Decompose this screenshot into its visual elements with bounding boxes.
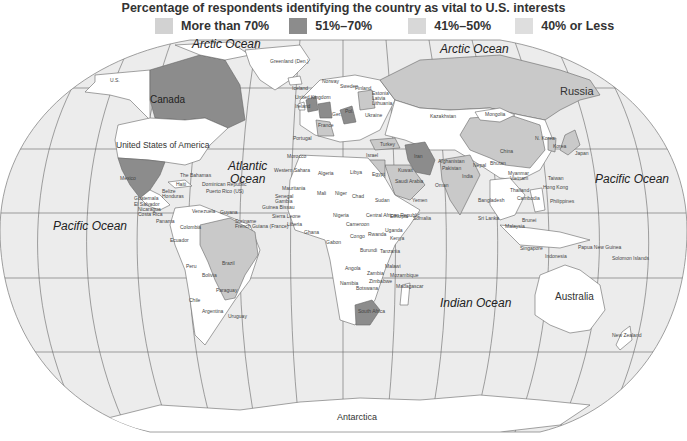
label-us-alaska: U.S. — [110, 77, 120, 83]
label-canada: Canada — [150, 94, 185, 105]
label-sweden: Sweden — [340, 83, 358, 89]
label-libya: Libya — [350, 169, 362, 175]
label-angola: Angola — [345, 265, 361, 271]
label-zimbabwe: Zimbabwe — [369, 278, 392, 284]
label-malawi: Malawi — [385, 263, 401, 269]
label-pacific-ocean-east: Pacific Ocean — [595, 172, 669, 186]
label-burundi: Burundi — [360, 247, 377, 253]
label-mozambique: Mozambique — [390, 272, 419, 278]
label-peru: Peru — [186, 263, 197, 269]
label-russia: Russia — [560, 85, 595, 97]
label-korea: Korea — [553, 143, 567, 149]
label-kenya: Kenya — [390, 235, 404, 241]
label-nepal: Nepal — [473, 162, 486, 168]
label-chile: Chile — [189, 297, 201, 303]
label-png: Papua New Guinea — [578, 244, 622, 250]
label-iceland: Iceland — [292, 85, 308, 91]
label-china: China — [500, 148, 513, 154]
label-south-africa: South Africa — [358, 308, 385, 314]
label-venezuela: Venezuela — [192, 208, 216, 214]
label-saudi: Saudi Arabia — [395, 178, 424, 184]
label-cameroon: Cameroon — [346, 221, 370, 227]
label-greenland: Greenland (Den.) — [270, 58, 309, 64]
label-puerto-rico: Puerto Rico (US) — [206, 188, 244, 194]
label-uruguay: Uruguay — [228, 313, 247, 319]
label-thailand: Thailand — [510, 187, 529, 193]
label-sierra-leone: Sierra Leone — [272, 213, 301, 219]
label-solomon: Solomon Islands — [612, 255, 649, 261]
label-niger: Niger — [335, 190, 347, 196]
label-norway: Norway — [322, 78, 339, 84]
label-mongolia: Mongolia — [485, 111, 506, 117]
label-ecuador: Ecuador — [170, 237, 189, 243]
label-tanzania: Tanzania — [380, 248, 400, 254]
label-chad: Chad — [352, 193, 364, 199]
label-madagascar: Madagascar — [396, 283, 424, 289]
label-argentina: Argentina — [202, 308, 224, 314]
label-mexico: Mexico — [120, 175, 136, 181]
label-morocco: Morocco — [287, 153, 306, 159]
label-arctic-ocean-east: Arctic Ocean — [439, 42, 509, 56]
label-australia: Australia — [555, 291, 594, 302]
label-mali: Mali — [317, 190, 326, 196]
label-pakistan: Pakistan — [442, 165, 461, 171]
label-uk: United Kingdom — [295, 94, 331, 100]
label-new-zealand: New Zealand — [612, 332, 642, 338]
label-indonesia: Indonesia — [545, 253, 567, 259]
label-singapore: Singapore — [520, 245, 543, 251]
label-india: India — [462, 173, 473, 179]
label-sri-lanka: Sri Lanka — [478, 215, 499, 221]
label-oman: Oman — [435, 182, 449, 188]
label-french-guiana: French Guiana (France) — [235, 223, 289, 229]
label-car: Central African Republic — [366, 212, 420, 218]
label-gabon: Gabon — [326, 239, 341, 245]
label-zambia: Zambia — [367, 270, 384, 276]
label-bolivia: Bolivia — [202, 272, 217, 278]
label-nigeria: Nigeria — [333, 212, 349, 218]
label-bahamas: The Bahamas — [180, 172, 212, 178]
label-portugal: Portugal — [293, 135, 312, 141]
label-israel: Israel — [366, 152, 378, 158]
label-arctic-ocean-west: Arctic Ocean — [191, 37, 261, 51]
label-taiwan: Taiwan — [548, 175, 564, 181]
label-guyana: Guyana — [220, 209, 238, 215]
label-antarctica: Antarctica — [337, 412, 377, 422]
label-sudan: Sudan — [375, 197, 390, 203]
label-yemen: Yemen — [412, 197, 428, 203]
label-congo: Congo — [350, 233, 365, 239]
label-honduras: Honduras — [162, 193, 184, 199]
label-france: France — [318, 122, 334, 128]
label-costa-rica: Costa Rica — [138, 211, 163, 217]
label-brazil: Brazil — [222, 260, 235, 266]
label-guinea-bissau: Guinea Bissau — [262, 204, 295, 210]
label-botswana: Botswana — [356, 285, 378, 291]
label-bhutan: Bhutan — [490, 160, 506, 166]
label-n-korea: N. Korea — [535, 135, 555, 141]
label-kuwait: Kuwait — [398, 167, 414, 173]
label-usa: United States of America — [116, 140, 210, 150]
label-hong-kong: Hong Kong — [543, 184, 568, 190]
label-bangladesh: Bangladesh — [478, 197, 505, 203]
label-dominican: Dominican Republic — [202, 181, 247, 187]
label-brunei: Brunei — [522, 217, 536, 223]
label-japan: Japan — [575, 150, 589, 156]
label-turkey: Turkey — [380, 141, 396, 147]
label-mauritania: Mauritania — [282, 185, 306, 191]
label-cambodia: Cambodia — [517, 195, 540, 201]
label-ukraine: Ukraine — [365, 112, 382, 118]
label-uganda: Uganda — [385, 227, 403, 233]
label-rwanda: Rwanda — [368, 231, 387, 237]
label-paraguay: Paraguay — [216, 287, 238, 293]
label-atlantic-1: Atlantic — [227, 159, 267, 173]
label-kazakhstan: Kazakhstan — [430, 113, 456, 119]
label-iran: Iran — [414, 153, 423, 159]
label-ghana: Ghana — [304, 229, 319, 235]
label-indian-ocean: Indian Ocean — [440, 296, 512, 310]
label-philippines: Philippines — [550, 198, 575, 204]
label-lithuania: Lithuania — [372, 100, 393, 106]
label-egypt: Egypt — [372, 171, 385, 177]
label-poland: Pol. — [345, 108, 354, 114]
label-liberia: Liberia — [287, 221, 302, 227]
label-haiti: Haiti — [176, 181, 186, 187]
label-germany: Ger. — [332, 111, 341, 117]
